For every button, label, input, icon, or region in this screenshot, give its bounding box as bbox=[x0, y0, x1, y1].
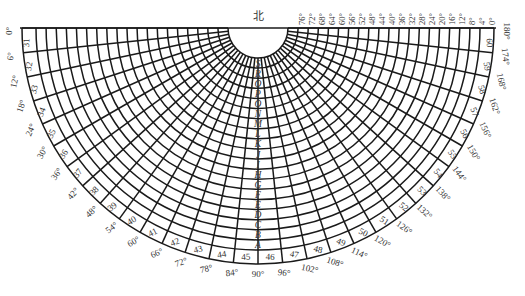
ring-letter-label: I bbox=[255, 160, 260, 170]
sector-number-label: 47 bbox=[289, 249, 300, 260]
sector-number-label: 46 bbox=[265, 251, 275, 261]
sector-number-label: 56 bbox=[458, 127, 471, 140]
top-degree-label: 20° bbox=[437, 13, 447, 25]
perimeter-degree-label: 168° bbox=[495, 72, 508, 91]
top-degree-label: 12° bbox=[457, 13, 467, 25]
sector-number-label: 54 bbox=[432, 167, 446, 181]
perimeter-degree-label: 84° bbox=[225, 267, 239, 278]
perimeter-degree-label: 36° bbox=[49, 165, 65, 181]
top-degree-label: 64° bbox=[327, 13, 337, 25]
radial-line bbox=[273, 54, 376, 232]
perimeter-degree-label: 138° bbox=[434, 184, 453, 204]
perimeter-degree-label: 42° bbox=[65, 185, 81, 201]
perimeter-degree-label: 180° bbox=[502, 22, 512, 40]
top-degree-label: 72° bbox=[307, 13, 317, 25]
perimeter-degree-label: 0° bbox=[4, 27, 14, 36]
perimeter-degree-label: 96° bbox=[277, 267, 291, 278]
sector-number-label: 59 bbox=[482, 61, 493, 72]
top-degree-label: 16° bbox=[447, 13, 457, 25]
perimeter-degree-label: 114° bbox=[350, 245, 370, 261]
ring-letter-label: K bbox=[254, 139, 262, 149]
top-degree-label: 0° bbox=[487, 17, 497, 25]
polar-grid-diagram: 76°72°68°64°60°56°52°48°44°40°36°32°28°2… bbox=[0, 0, 525, 296]
perimeter-degree-label: 78° bbox=[199, 262, 214, 274]
ring-letter-label: F bbox=[254, 190, 261, 200]
perimeter-degree-label: 144° bbox=[450, 164, 468, 184]
sector-number-label: 37 bbox=[71, 166, 85, 180]
radial-line bbox=[23, 31, 228, 53]
radial-line bbox=[54, 43, 232, 146]
perimeter-degree-label: 24° bbox=[23, 122, 37, 138]
ring-letter-label: B bbox=[255, 230, 261, 240]
radial-line bbox=[288, 31, 493, 53]
perimeter-degree-label: 90° bbox=[252, 269, 265, 279]
sector-number-label: 48 bbox=[312, 243, 324, 255]
perimeter-degree-label: 126° bbox=[394, 219, 414, 237]
ring-letter-label: M bbox=[253, 119, 263, 129]
top-degree-label: 40° bbox=[387, 13, 397, 25]
perimeter-degree-label: 6° bbox=[5, 51, 16, 60]
north-label: 北 bbox=[253, 10, 264, 22]
sector-number-label: 53 bbox=[415, 184, 429, 198]
sector-number-label: 38 bbox=[87, 184, 101, 198]
sector-number-label: 55 bbox=[446, 148, 460, 161]
sector-number-label: 44 bbox=[216, 248, 227, 259]
radial-line bbox=[233, 58, 255, 263]
top-degree-label: 36° bbox=[397, 13, 407, 25]
top-degree-label: 48° bbox=[367, 13, 377, 25]
perimeter-degree-label: 108° bbox=[325, 255, 345, 270]
ring-letter-label: D bbox=[254, 210, 262, 220]
perimeter-degree-label: 66° bbox=[149, 246, 165, 260]
perimeter-degree-label: 54° bbox=[104, 220, 120, 236]
sector-number-label: 43 bbox=[192, 243, 204, 255]
perimeter-degree-label: 132° bbox=[415, 202, 435, 221]
sector-number-label: 31 bbox=[21, 38, 31, 48]
sector-number-label: 52 bbox=[397, 200, 410, 213]
perimeter-degree-label: 150° bbox=[465, 143, 482, 163]
radial-line bbox=[140, 54, 243, 232]
perimeter-degree-label: 162° bbox=[487, 96, 502, 116]
ring-letter-label: A bbox=[254, 240, 261, 250]
sector-number-label: 57 bbox=[468, 106, 481, 118]
ring-letter-label: E bbox=[254, 200, 261, 210]
top-degree-label: 4° bbox=[477, 17, 487, 25]
ring-letter-label: J bbox=[256, 150, 261, 160]
sector-number-label: 60 bbox=[484, 38, 494, 48]
top-degree-label: 28° bbox=[417, 13, 427, 25]
sector-number-label: 58 bbox=[476, 84, 488, 96]
sector-number-label: 34 bbox=[35, 106, 48, 118]
top-degree-label: 68° bbox=[317, 13, 327, 25]
top-degree-label: 24° bbox=[427, 13, 437, 25]
inner-semicircle bbox=[228, 28, 288, 58]
ring-letter-label: H bbox=[254, 170, 263, 180]
sector-number-label: 36 bbox=[57, 147, 71, 160]
top-degree-label: 76° bbox=[297, 13, 307, 25]
perimeter-degree-label: 30° bbox=[35, 144, 50, 160]
sector-number-label: 32 bbox=[23, 61, 34, 71]
sector-number-label: 35 bbox=[45, 127, 58, 140]
perimeter-degree-label: 174° bbox=[500, 47, 512, 65]
sector-number-label: 39 bbox=[105, 200, 119, 214]
sector-number-label: 45 bbox=[241, 251, 251, 261]
perimeter-degree-label: 102° bbox=[300, 262, 319, 275]
ring-letter-label: O bbox=[255, 99, 262, 109]
ring-letter-label: P bbox=[254, 89, 261, 99]
top-degree-label: 8° bbox=[467, 17, 477, 25]
grid-labels: 76°72°68°64°60°56°52°48°44°40°36°32°28°2… bbox=[4, 13, 512, 279]
radial-line bbox=[261, 58, 283, 263]
radial-line bbox=[284, 43, 462, 146]
ring-letter-label: S bbox=[256, 59, 261, 69]
ring-letter-label: N bbox=[254, 109, 262, 119]
perimeter-degree-label: 156° bbox=[477, 120, 493, 140]
top-degree-label: 44° bbox=[377, 13, 387, 25]
sector-number-label: 33 bbox=[28, 83, 40, 95]
perimeter-degree-label: 18° bbox=[14, 98, 28, 113]
ring-letter-label: R bbox=[254, 69, 261, 79]
ring-letter-label: L bbox=[254, 129, 260, 139]
perimeter-degree-label: 48° bbox=[83, 203, 99, 219]
perimeter-degree-label: 72° bbox=[174, 255, 189, 269]
top-degree-label: 32° bbox=[407, 13, 417, 25]
ring-letter-label: C bbox=[255, 220, 262, 230]
top-degree-label: 52° bbox=[357, 13, 367, 25]
ring-letter-label: Q bbox=[255, 79, 262, 89]
